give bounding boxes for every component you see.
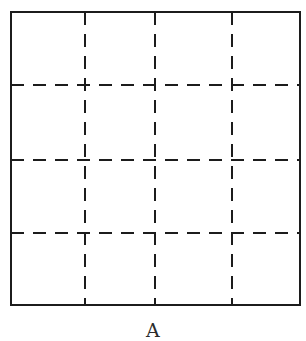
figure-container: A [0,0,306,341]
figure-background [0,0,306,341]
grid-diagram-canvas [0,0,306,341]
figure-label-a: A [0,321,306,340]
